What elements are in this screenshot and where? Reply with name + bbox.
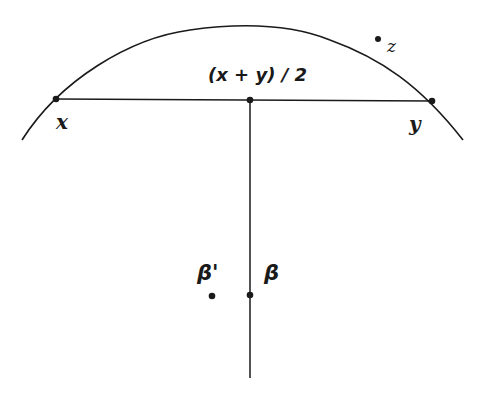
chord-x-y [56,99,432,101]
label-z: z [387,38,396,55]
point-midpoint [247,97,254,104]
point-x [53,96,60,103]
label-x: x [56,112,68,132]
label-y: y [409,114,421,134]
label-beta: β [264,263,279,284]
point-z [375,36,381,42]
diagram-canvas: (x + y) / 2 x y z β β' [0,0,484,399]
point-y [429,98,436,105]
diagram-drawing [0,0,484,399]
label-beta-prime: β' [197,263,218,284]
label-midpoint: (x + y) / 2 [208,66,307,84]
point-beta [247,292,254,299]
point-beta-prime [209,293,216,300]
